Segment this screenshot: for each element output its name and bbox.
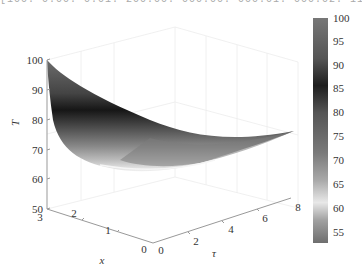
z-tick: 100 bbox=[27, 54, 44, 66]
tau-axis-label: τ bbox=[212, 247, 217, 259]
surface-plot: 100 90 80 70 60 50 T 3 2 1 0 x 0 2 4 6 8… bbox=[0, 0, 362, 272]
tau-tick: 4 bbox=[228, 223, 234, 235]
z-axis-ticks: 100 90 80 70 60 50 bbox=[27, 54, 44, 215]
tau-axis-ticks: 0 2 4 6 8 bbox=[158, 201, 301, 256]
colorbar-tick: 55 bbox=[333, 226, 345, 238]
colorbar-tick: 100 bbox=[333, 12, 350, 24]
colorbar-tick: 75 bbox=[333, 130, 345, 142]
z-tick: 80 bbox=[32, 114, 44, 126]
colorbar-tick: 70 bbox=[333, 154, 345, 166]
tau-axis bbox=[153, 198, 291, 243]
colorbar-tick: 90 bbox=[333, 59, 345, 71]
z-tick: 60 bbox=[32, 173, 44, 185]
x-depth-tick: 1 bbox=[105, 224, 111, 236]
tau-tick: 6 bbox=[262, 212, 268, 224]
tau-tick: 8 bbox=[295, 201, 301, 213]
colorbar bbox=[313, 18, 328, 243]
tau-tick: 2 bbox=[193, 235, 199, 247]
colorbar-tick: 95 bbox=[333, 35, 345, 47]
z-tick: 90 bbox=[32, 84, 44, 96]
x-depth-tick: 0 bbox=[141, 243, 147, 255]
z-tick: 70 bbox=[32, 144, 44, 156]
colorbar-ticks: 100 95 90 85 80 75 70 65 60 55 bbox=[333, 12, 350, 238]
x-depth-tick: 2 bbox=[71, 207, 77, 219]
colorbar-tick: 80 bbox=[333, 106, 345, 118]
tau-tick: 0 bbox=[158, 244, 164, 256]
colorbar-tick: 65 bbox=[333, 178, 345, 190]
colorbar-tick: 60 bbox=[333, 202, 345, 214]
temperature-surface bbox=[47, 60, 294, 171]
z-axis-label: T bbox=[9, 119, 21, 126]
x-depth-tick: 3 bbox=[37, 211, 43, 223]
x-depth-axis-ticks: 3 2 1 0 bbox=[37, 207, 147, 255]
colorbar-tick: 85 bbox=[333, 82, 345, 94]
x-depth-axis bbox=[47, 209, 153, 243]
x-depth-axis-label: x bbox=[99, 254, 105, 266]
